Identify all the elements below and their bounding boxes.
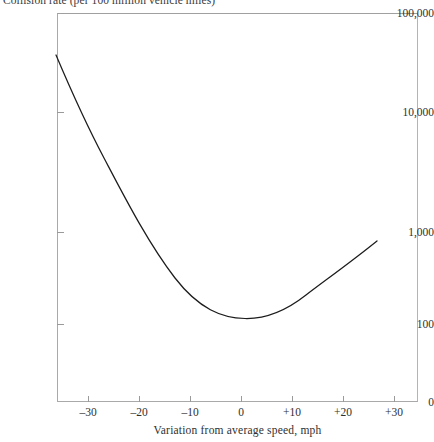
x-tick-label-zero: 0 [221,406,261,418]
collision-rate-curve [56,55,377,319]
y-tick-label-1000: 1,000 [382,226,434,238]
x-tick-label-minus10: –10 [170,406,210,418]
x-tick-marks [89,396,395,402]
y-tick-label-100000: 100,000 [382,7,434,19]
plot-canvas [0,0,434,442]
x-tick-label-minus30: –30 [68,406,108,418]
x-tick-label-plus20: +20 [323,406,363,418]
x-tick-label-plus10: +10 [272,406,312,418]
collision-rate-figure: Collision rate (per 100 million vehicle … [0,0,434,442]
x-tick-label-minus20: –20 [119,406,159,418]
x-tick-label-plus30: +30 [374,406,414,418]
y-tick-marks [57,113,64,325]
y-tick-label-100: 100 [382,318,434,330]
y-tick-label-10000: 10,000 [382,106,434,118]
x-axis-title: Variation from average speed, mph [57,424,418,437]
